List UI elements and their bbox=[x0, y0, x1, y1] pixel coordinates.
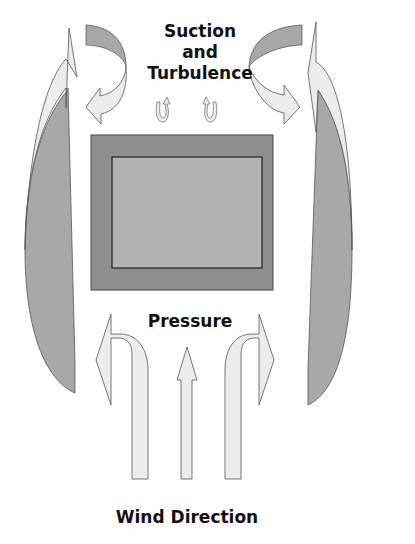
building-inner bbox=[112, 157, 262, 268]
turbulence-arrow-right-icon bbox=[203, 97, 217, 122]
turbulence-arrow-left-icon bbox=[156, 97, 170, 122]
wind-arrow-left-icon bbox=[96, 314, 148, 479]
pressure-label: Pressure bbox=[115, 311, 265, 332]
suction-label-line2: and bbox=[125, 42, 275, 63]
suction-label-line3: Turbulence bbox=[125, 63, 275, 84]
wind-arrow-right-icon bbox=[225, 314, 274, 479]
suction-label-line1: Suction bbox=[125, 21, 275, 42]
wind-direction-label: Wind Direction bbox=[87, 507, 287, 528]
left-circulation-arrow-icon bbox=[25, 28, 77, 393]
top-left-curl-arrow-icon bbox=[86, 25, 126, 124]
wind-arrow-center-icon bbox=[177, 347, 197, 479]
right-circulation-arrow-icon bbox=[308, 22, 352, 405]
building bbox=[91, 135, 273, 290]
suction-turbulence-label: Suction and Turbulence bbox=[125, 21, 275, 84]
